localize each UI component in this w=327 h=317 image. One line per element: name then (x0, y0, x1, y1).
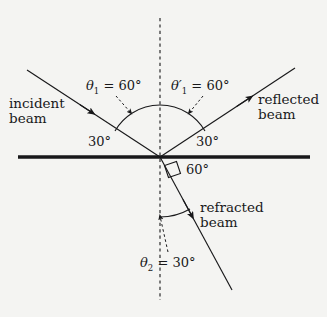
theta1-leader-icon (116, 96, 131, 113)
incident-ray-arrow-icon (80, 105, 93, 114)
theta1-prime-leader-icon (189, 96, 203, 113)
theta1-subscript: 1 (94, 86, 99, 96)
reflected-ray-arrow-icon (237, 97, 251, 106)
refracted-beam-label: refracted beam (200, 200, 264, 230)
angle-of-reflection-label: θ′1 = 60° (171, 79, 229, 96)
refracted-beam-line2: beam (200, 215, 264, 230)
equals-sign: = (103, 78, 114, 93)
equals-sign: = (157, 255, 168, 270)
angle-of-incidence-label: θ1 = 60° (86, 79, 141, 96)
incident-surface-angle-label: 30° (88, 135, 111, 150)
incident-beam-line2: beam (9, 111, 65, 126)
refracted-surface-angle-label: 60° (186, 163, 209, 178)
incident-beam-label: incident beam (9, 96, 65, 126)
reflected-beam-line1: reflected (258, 92, 319, 107)
angle-of-incidence-value: 60° (118, 78, 141, 93)
theta-symbol: θ (140, 255, 148, 270)
angle-of-refraction-label: θ2 = 30° (140, 256, 195, 273)
reflected-surface-angle-label: 30° (196, 135, 219, 150)
refracted-ray-arrow-icon (183, 200, 193, 218)
theta2-leader-icon (160, 216, 168, 252)
theta2-subscript: 2 (148, 263, 153, 273)
optics-diagram: θ1 = 60° θ′1 = 60° θ2 = 30° 30° 30° 60° … (0, 0, 327, 317)
theta-symbol: θ (86, 78, 94, 93)
incident-beam-line1: incident (9, 96, 65, 111)
refraction-arc (160, 209, 190, 217)
angle-of-refraction-value: 30° (172, 255, 195, 270)
equals-sign: = (191, 78, 202, 93)
reflected-beam-label: reflected beam (258, 92, 319, 122)
theta1-prime-subscript: 1 (182, 86, 187, 96)
refracted-beam-line1: refracted (200, 200, 264, 215)
theta-symbol: θ (171, 78, 179, 93)
angle-of-reflection-value: 60° (206, 78, 229, 93)
reflected-beam-line2: beam (258, 107, 319, 122)
